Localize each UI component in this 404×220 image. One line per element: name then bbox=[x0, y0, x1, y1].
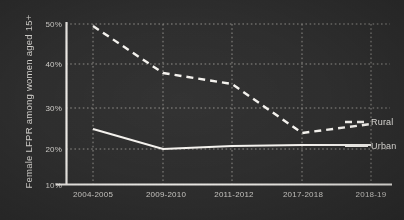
grid-vertical bbox=[93, 24, 371, 185]
chart-container: Female LFPR among women aged 15+ 10% 20%… bbox=[0, 0, 404, 220]
chart-plot-svg bbox=[0, 0, 404, 220]
grid-horizontal bbox=[66, 24, 390, 149]
